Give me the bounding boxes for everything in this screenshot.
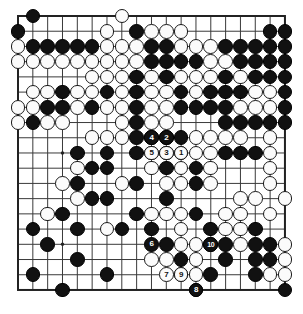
go-diagram: 12345678910 [0, 0, 303, 314]
goban-grid [0, 0, 303, 314]
